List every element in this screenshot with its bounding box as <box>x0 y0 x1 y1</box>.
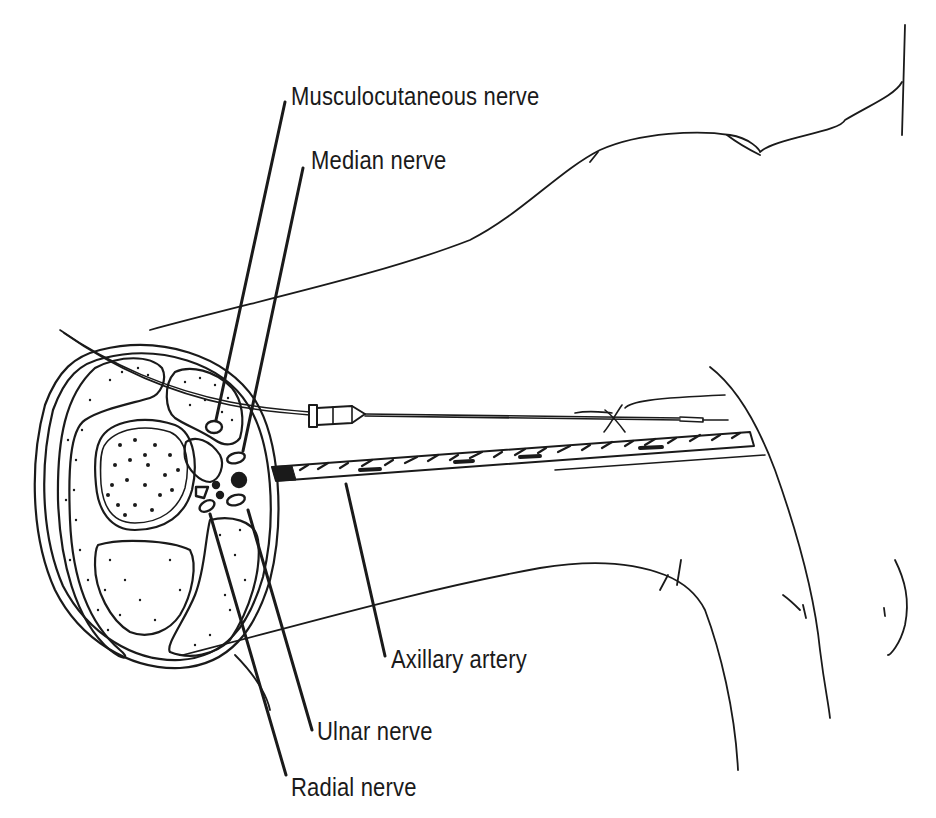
radial-nerve-shape <box>198 498 217 515</box>
ulnar-nerve-shape <box>226 493 246 507</box>
musculocutaneous-nerve-shape <box>206 421 222 433</box>
label-ulnar-nerve: Ulnar nerve <box>317 717 433 746</box>
arm-outline <box>150 25 907 770</box>
leader-axillary-artery <box>346 484 385 656</box>
brachialis <box>185 439 222 482</box>
axillary-artery-tube <box>272 432 754 481</box>
label-musculocutaneous-nerve: Musculocutaneous nerve <box>291 82 539 111</box>
triceps-medial <box>95 541 194 635</box>
axillary-artery-shape <box>232 473 246 487</box>
leader-ulnar <box>248 510 312 730</box>
coracobrachialis-compartment <box>167 369 243 444</box>
vein-shape <box>196 487 208 498</box>
leader-musculocutaneous <box>216 102 285 420</box>
label-median-nerve: Median nerve <box>311 146 446 175</box>
humerus-marrow <box>100 428 187 523</box>
label-axillary-artery: Axillary artery <box>391 645 527 674</box>
label-radial-nerve: Radial nerve <box>291 773 417 802</box>
anatomy-illustration <box>0 0 936 818</box>
humerus-compartment <box>95 420 195 530</box>
diagram-canvas: Musculocutaneous nerve Median nerve Axil… <box>0 0 936 818</box>
median-nerve-shape <box>226 451 246 465</box>
leader-lines <box>210 102 385 775</box>
